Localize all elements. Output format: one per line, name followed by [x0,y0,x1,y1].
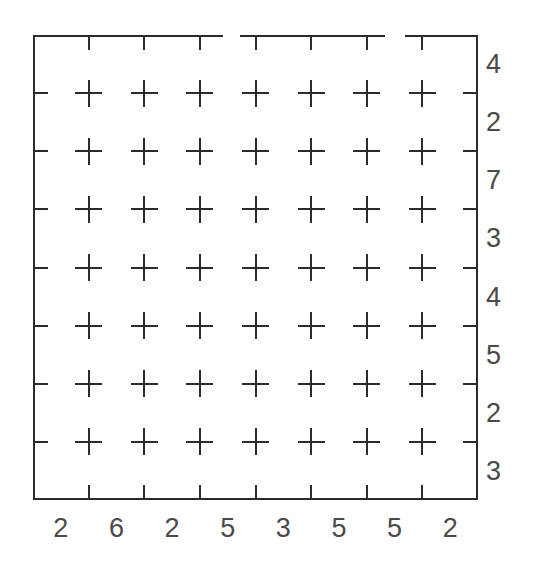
tick-right-7 [463,441,478,443]
plus-marker [186,80,213,107]
plus-marker [131,138,158,165]
plus-marker [298,196,325,223]
plus-marker [75,312,102,339]
plus-marker [298,312,325,339]
y-axis-tick-label: 3 [486,225,526,252]
plus-marker [353,80,380,107]
plus-marker [409,254,436,281]
plus-marker [75,138,102,165]
x-axis-tick-label: 6 [96,515,136,542]
plus-marker [75,80,102,107]
plus-marker [242,80,269,107]
plus-marker [409,138,436,165]
x-axis-tick-label: 2 [41,515,81,542]
tick-bottom-3 [199,485,201,500]
x-axis-tick-label: 5 [319,515,359,542]
plus-marker [242,312,269,339]
plus-marker [186,138,213,165]
x-axis-tick-label: 2 [152,515,192,542]
tick-left-5 [33,325,48,327]
tick-left-2 [33,150,48,152]
plus-marker [186,428,213,455]
plus-marker [298,80,325,107]
tick-bottom-7 [421,485,423,500]
plus-marker [353,312,380,339]
plus-marker [242,196,269,223]
frame-edge-top-segment-2 [240,35,385,37]
y-axis-tick-label: 3 [486,457,526,484]
plus-marker [186,254,213,281]
frame-edge-top-segment-3 [405,35,478,37]
plus-marker [131,370,158,397]
plus-marker [131,196,158,223]
plus-marker [353,196,380,223]
tick-left-7 [33,441,48,443]
plus-marker [242,428,269,455]
plus-marker [298,428,325,455]
frame-edge-top-segment-1 [33,35,223,37]
y-axis-tick-label: 4 [486,51,526,78]
tick-left-1 [33,92,48,94]
plus-marker [298,138,325,165]
tick-top-5 [310,35,312,50]
plus-marker [409,196,436,223]
plus-marker [75,370,102,397]
plus-marker [131,254,158,281]
plus-marker [353,428,380,455]
plus-marker [242,370,269,397]
y-axis-tick-label: 5 [486,341,526,368]
plot-area [33,35,478,500]
plus-marker [186,370,213,397]
tick-top-4 [255,35,257,50]
tick-right-1 [463,92,478,94]
x-axis-tick-label: 3 [263,515,303,542]
tick-right-2 [463,150,478,152]
y-axis-tick-label: 7 [486,167,526,194]
tick-top-7 [421,35,423,50]
tick-top-3 [199,35,201,50]
tick-left-6 [33,383,48,385]
plus-marker [131,312,158,339]
plus-marker [298,254,325,281]
tick-bottom-2 [143,485,145,500]
plus-marker [409,370,436,397]
tick-bottom-1 [88,485,90,500]
plus-marker [75,254,102,281]
plus-marker [409,80,436,107]
tick-right-3 [463,208,478,210]
x-axis-tick-label: 5 [375,515,415,542]
tick-right-5 [463,325,478,327]
tick-right-6 [463,383,478,385]
plus-marker [186,312,213,339]
tick-top-1 [88,35,90,50]
y-axis-tick-label: 2 [486,109,526,136]
tick-bottom-4 [255,485,257,500]
tick-top-6 [366,35,368,50]
plus-marker [242,254,269,281]
plus-marker [409,312,436,339]
y-axis-tick-label: 2 [486,399,526,426]
tick-left-4 [33,267,48,269]
plus-marker [75,196,102,223]
tick-right-4 [463,267,478,269]
figure-container: 42734523 26253552 [0,0,544,581]
plus-marker [242,138,269,165]
tick-top-2 [143,35,145,50]
plus-marker [186,196,213,223]
plus-marker [75,428,102,455]
plus-marker [353,370,380,397]
x-axis-tick-label: 2 [430,515,470,542]
plus-marker [298,370,325,397]
plus-marker [353,254,380,281]
tick-left-3 [33,208,48,210]
tick-bottom-6 [366,485,368,500]
plus-marker [131,428,158,455]
y-axis-tick-label: 4 [486,283,526,310]
plus-marker [409,428,436,455]
tick-bottom-5 [310,485,312,500]
plus-marker [353,138,380,165]
plus-marker [131,80,158,107]
x-axis-tick-label: 5 [208,515,248,542]
